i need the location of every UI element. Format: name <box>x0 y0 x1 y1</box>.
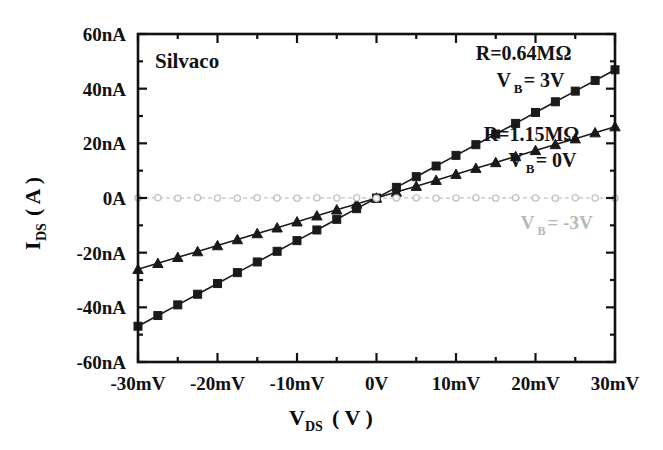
data-marker-circle <box>155 195 161 201</box>
y-axis-title-subscript: DS <box>34 223 49 241</box>
data-marker-circle <box>314 195 320 201</box>
y-tick-label: -40nA <box>76 297 126 318</box>
anno-vb-3v-subscript: B <box>514 81 523 96</box>
data-marker-square <box>432 162 440 170</box>
x-tick-label: 30mV <box>591 373 640 394</box>
data-marker-circle <box>254 195 260 201</box>
y-tick-label: 40nA <box>83 79 127 100</box>
anno-vb-m3v-tail: = -3V <box>548 212 593 233</box>
data-marker-square <box>253 258 261 266</box>
anno-vb-m3v-subscript: B <box>538 224 546 238</box>
watermark-label: Silvaco <box>155 49 219 73</box>
data-marker-square <box>591 76 599 84</box>
y-tick-label: 60nA <box>83 24 127 45</box>
data-marker-square <box>273 247 281 255</box>
data-marker-square <box>233 269 241 277</box>
data-marker-square <box>194 290 202 298</box>
x-axis-title-main: V <box>289 405 305 430</box>
iv-characteristic-chart: -30mV-20mV-10mV0V10mV20mV30mV 60nA40nA20… <box>0 0 663 450</box>
data-marker-square <box>571 87 579 95</box>
data-marker-circle <box>453 195 459 201</box>
x-tick-label: -30mV <box>111 373 166 394</box>
data-marker-circle <box>433 195 439 201</box>
data-marker-square <box>174 301 182 309</box>
data-marker-circle <box>493 195 499 201</box>
anno-vb-0v-subscript: B <box>526 161 535 176</box>
data-marker-circle <box>234 195 240 201</box>
data-marker-circle <box>393 195 399 201</box>
data-marker-circle <box>294 195 300 201</box>
y-tick-label: 20nA <box>83 133 127 154</box>
y-tick-label: -60nA <box>76 352 126 373</box>
x-tick-label: -20mV <box>190 373 245 394</box>
anno-r-115: R=1.15MΩ <box>484 123 580 145</box>
data-marker-circle <box>532 195 538 201</box>
data-marker-circle <box>175 195 181 201</box>
data-marker-circle <box>274 195 280 201</box>
data-marker-circle <box>334 195 340 201</box>
x-tick-label: -10mV <box>270 373 325 394</box>
chart-figure: -30mV-20mV-10mV0V10mV20mV30mV 60nA40nA20… <box>0 0 663 450</box>
data-marker-square <box>333 215 341 223</box>
data-marker-square <box>214 280 222 288</box>
anno-vb-3v-tail: = 3V <box>524 69 565 91</box>
x-tick-label: 0V <box>365 373 389 394</box>
data-marker-circle <box>195 195 201 201</box>
y-axis-title-main: I <box>20 241 45 250</box>
watermark-silvaco: Silvaco <box>155 49 219 73</box>
anno-r-064-text: R=0.64MΩ <box>476 42 572 64</box>
anno-vb-0v-text: V <box>508 149 523 171</box>
data-marker-square <box>472 141 480 149</box>
anno-vb-3v-text: V <box>496 69 511 91</box>
data-marker-circle <box>214 195 220 201</box>
data-marker-square <box>551 98 559 106</box>
anno-vb-0v-tail: = 0V <box>536 149 577 171</box>
data-marker-square <box>313 226 321 234</box>
data-marker-circle <box>572 195 578 201</box>
x-axis-title-subscript: DS <box>305 419 323 434</box>
data-marker-circle <box>513 195 519 201</box>
data-marker-square <box>293 237 301 245</box>
data-marker-circle <box>552 195 558 201</box>
y-tick-label: -20nA <box>76 243 126 264</box>
anno-r-115-text: R=1.15MΩ <box>484 123 580 145</box>
data-marker-circle <box>373 195 379 201</box>
data-marker-square <box>154 312 162 320</box>
data-marker-square <box>532 108 540 116</box>
data-marker-square <box>452 151 460 159</box>
x-axis-title-unit: ( V ) <box>332 405 373 430</box>
anno-r-064: R=0.64MΩ <box>476 42 572 64</box>
data-marker-circle <box>473 195 479 201</box>
x-tick-label: 20mV <box>511 373 560 394</box>
anno-vb-m3v-text: V <box>521 212 535 233</box>
data-marker-circle <box>413 195 419 201</box>
data-marker-square <box>412 173 420 181</box>
y-tick-label: 0A <box>103 188 127 209</box>
y-axis-title-unit: ( A ) <box>20 177 45 216</box>
data-marker-circle <box>354 195 360 201</box>
x-tick-label: 10mV <box>432 373 481 394</box>
data-marker-circle <box>592 195 598 201</box>
